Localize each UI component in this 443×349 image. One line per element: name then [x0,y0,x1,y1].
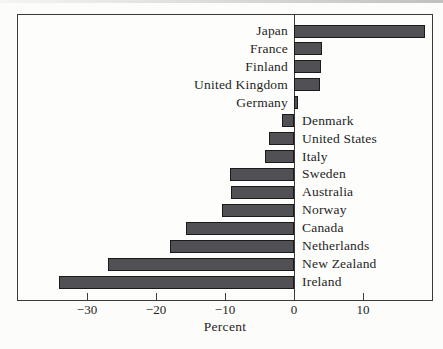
x-tick-label: −10 [203,303,247,317]
bar-label: Norway [302,202,347,218]
bar [265,150,294,163]
bar-label: Ireland [302,274,342,290]
x-tick-label: 0 [272,303,316,317]
x-tick [87,293,88,300]
bar [282,114,294,127]
x-tick [363,293,364,300]
bar [294,96,298,109]
bar [108,258,294,271]
bar-label: New Zealand [302,256,377,272]
bar [170,240,294,253]
bar [269,132,294,145]
bar [294,60,321,73]
bar [294,42,322,55]
figure-canvas: JapanFranceFinlandUnited KingdomGermanyD… [0,0,443,349]
plot-area: JapanFranceFinlandUnited KingdomGermanyD… [17,14,433,301]
bar-label: Canada [302,220,344,236]
scan-artifact-line [0,0,443,3]
bar [222,204,294,217]
bar-label: Finland [245,59,288,75]
bar [186,222,294,235]
bar-label: Australia [302,184,353,200]
x-tick-label: 10 [341,303,385,317]
bar [294,78,320,91]
bar [231,186,294,199]
bar-label: United Kingdom [194,77,288,93]
x-tick-label: −20 [134,303,178,317]
bar [59,276,294,289]
x-axis-label: Percent [17,319,433,335]
x-tick [156,293,157,300]
bar-label: Germany [236,95,288,111]
x-tick [294,293,295,300]
x-tick-label: −30 [65,303,109,317]
bar-label: Sweden [302,166,346,182]
bar [294,25,425,38]
bar [230,168,294,181]
bar-label: Netherlands [302,238,369,254]
bar-label: Italy [302,149,328,165]
bar-label: United States [302,131,377,147]
bar-label: Japan [256,23,288,39]
bar-label: Denmark [302,113,354,129]
bar-label: France [250,41,288,57]
x-tick [225,293,226,300]
